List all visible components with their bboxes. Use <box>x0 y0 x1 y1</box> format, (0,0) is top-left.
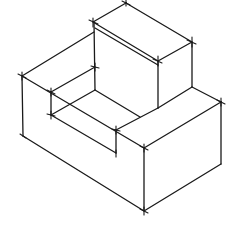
inner-step <box>51 67 158 153</box>
isometric-block-sketch <box>0 0 237 248</box>
vertex-ticks <box>18 0 225 215</box>
raised-block <box>93 3 192 108</box>
base-block <box>22 32 221 211</box>
